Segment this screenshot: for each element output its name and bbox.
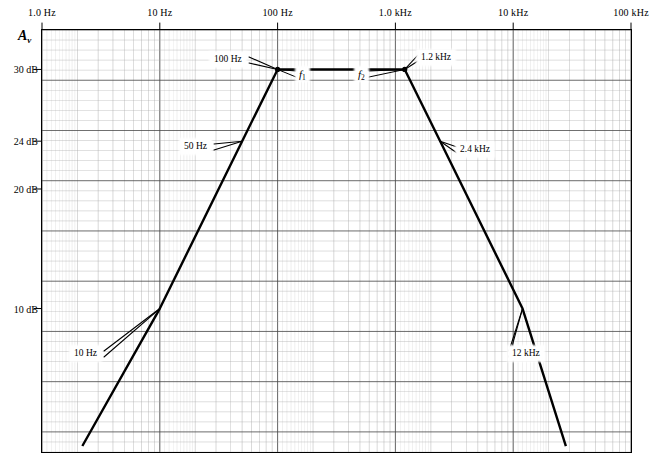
y-axis-tick-label: 10 dB	[8, 303, 38, 314]
annotation-upper-midband: 2.4 kHz	[457, 143, 493, 156]
x-axis-tick-label: 1.0 Hz	[28, 7, 56, 18]
annotation-high-rolloff: 12 kHz	[509, 347, 543, 360]
y-axis-tick-label: 24 dB	[8, 136, 38, 147]
annotation-f1-symbol: f1	[297, 68, 308, 80]
x-axis-tick-label: 100 Hz	[262, 7, 292, 18]
y-axis-title-subscript: v	[27, 35, 31, 45]
y-axis-tick-label: 20 dB	[8, 183, 38, 194]
x-axis-tick-label: 10 Hz	[147, 7, 172, 18]
y-axis-title: Av	[18, 28, 31, 44]
annotation-low-rolloff: 10 Hz	[71, 347, 100, 360]
y-axis-title-text: A	[18, 28, 27, 43]
corner-symbol-subscript: 1	[302, 73, 306, 82]
x-axis-tick-label: 1.0 kHz	[379, 7, 412, 18]
x-axis-tick-label: 10 kHz	[498, 7, 528, 18]
annotation-f1-corner: 100 Hz	[211, 53, 245, 66]
annotation-lower-midband: 50 Hz	[181, 140, 210, 153]
y-axis-tick-label: 30 dB	[8, 64, 38, 75]
annotation-f2-symbol: f2	[356, 68, 367, 80]
plot-area	[41, 29, 632, 453]
annotation-f2-corner: 1.2 kHz	[418, 51, 454, 64]
grid-lines	[42, 30, 631, 452]
x-axis-tick-label: 100 kHz	[613, 7, 649, 18]
corner-symbol-subscript: 2	[361, 73, 365, 82]
